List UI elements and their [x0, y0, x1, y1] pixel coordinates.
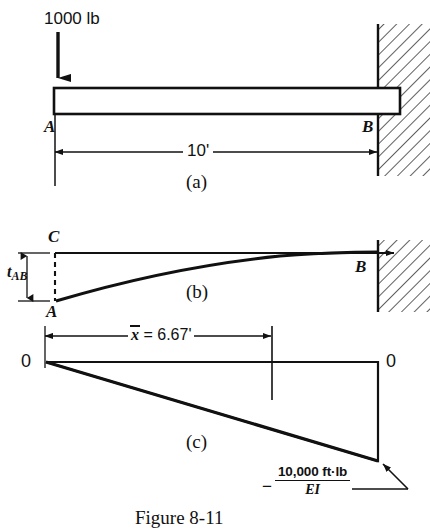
span-dimension-label: 10' [183, 142, 213, 159]
panel-c-graphics [45, 326, 408, 489]
moment-leader-arrow [383, 464, 408, 489]
engineering-figure: 1000 lb A B 10' (a) C A B tAB (b) x = 6.… [0, 0, 430, 531]
centroid-value: = 6.67' [139, 326, 191, 343]
elastic-curve-ab [56, 252, 378, 301]
deviation-subscript: AB [11, 269, 27, 283]
point-label-c-panel-b: C [48, 228, 59, 245]
panel-a-graphics [54, 24, 430, 186]
point-label-a-panel-a: A [44, 118, 55, 135]
load-label: 1000 lb [44, 10, 100, 27]
point-label-b-panel-b: B [355, 258, 366, 275]
panel-b-graphics [18, 240, 430, 312]
wall-support-b [378, 240, 430, 312]
moment-sign: − [262, 478, 272, 495]
panel-caption-b: (b) [186, 282, 208, 301]
moment-numerator: 10,000 ft·lb [275, 464, 350, 481]
beam-a [54, 88, 400, 114]
zero-label-left: 0 [21, 352, 31, 370]
centroid-distance-label: x = 6.67' [128, 327, 194, 343]
tangential-deviation-label: tAB [7, 264, 27, 282]
moment-denominator: EI [275, 481, 350, 498]
moment-hypotenuse [46, 362, 378, 461]
point-label-b-panel-a: B [362, 118, 373, 135]
centroid-symbol: x [131, 327, 139, 343]
panel-caption-a: (a) [186, 172, 207, 191]
zero-label-right: 0 [386, 352, 396, 370]
moment-value-annotation: − 10,000 ft·lb EI [262, 464, 350, 498]
moment-fraction: 10,000 ft·lb EI [275, 464, 350, 498]
point-label-a-panel-b: A [46, 303, 57, 320]
panel-caption-c: (c) [186, 432, 207, 451]
figure-caption: Figure 8-11 [135, 508, 223, 527]
